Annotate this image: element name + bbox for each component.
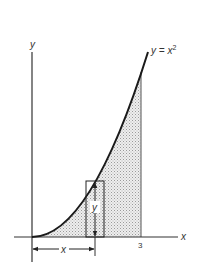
strip-height-label: y	[91, 202, 98, 213]
y-axis-label: y	[29, 39, 36, 50]
curve-label-base: y = x	[150, 45, 173, 56]
x-tick-label-3: 3	[138, 241, 143, 250]
curve-label-exponent: 2	[172, 44, 176, 51]
area-under-parabola-diagram: y x y x 3 y = x2	[0, 0, 201, 272]
x-axis-label: x	[180, 231, 187, 242]
curve-label: y = x2	[150, 44, 176, 56]
offset-label: x	[60, 244, 67, 255]
